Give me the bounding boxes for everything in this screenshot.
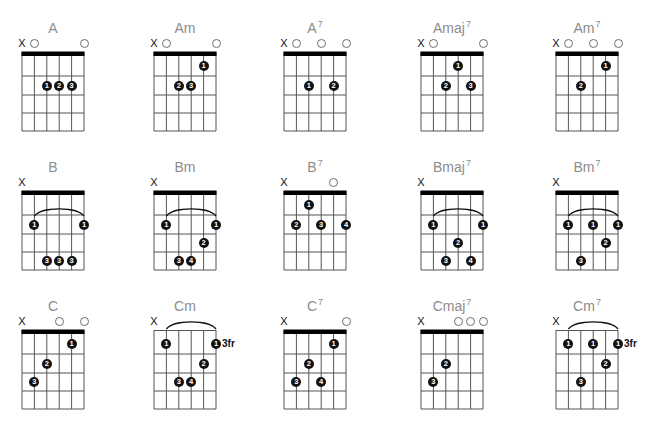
finger-dot: 1 — [42, 81, 52, 91]
chord-name: Cm7 — [516, 298, 655, 314]
finger-number: 1 — [70, 339, 74, 348]
finger-dot: 1 — [67, 339, 77, 349]
chord-extension-label: 7 — [318, 297, 323, 307]
chord-name: Cmaj7 — [381, 298, 523, 314]
finger-dot: 3 — [316, 220, 326, 230]
finger-number: 1 — [566, 339, 570, 348]
finger-number: 2 — [579, 81, 583, 90]
open-string-circle-icon — [80, 317, 89, 326]
finger-number: 1 — [566, 220, 570, 229]
chord-root-label: C — [307, 298, 317, 314]
chord-extension-label: 7 — [466, 158, 471, 168]
fretboard-grid — [542, 36, 632, 146]
fret-position-label: 3fr — [624, 338, 637, 350]
finger-dot: 2 — [601, 359, 611, 369]
chord-diagram: Bm7X11123 — [556, 191, 618, 271]
finger-number: 1 — [164, 339, 168, 348]
nut-bar — [421, 52, 484, 57]
chord-root-label: Cm — [573, 298, 595, 314]
chord-name: Bm7 — [516, 159, 655, 175]
open-string-circle-icon — [292, 39, 301, 48]
finger-number: 4 — [189, 377, 193, 386]
chord-extension-label: 7 — [595, 158, 600, 168]
finger-number: 2 — [177, 81, 181, 90]
finger-dot: 2 — [174, 81, 184, 91]
finger-dot: 1 — [478, 220, 488, 230]
fretboard-grid — [140, 314, 230, 424]
fretboard-grid — [8, 175, 98, 285]
chord-name: Am — [114, 20, 256, 36]
nut-bar — [22, 52, 85, 57]
open-string-circle-icon — [479, 317, 488, 326]
finger-dot: 4 — [466, 256, 476, 266]
chord-extension-label: 7 — [318, 19, 323, 29]
finger-dot: 1 — [563, 220, 573, 230]
finger-number: 1 — [45, 81, 49, 90]
finger-dot: 3 — [186, 81, 196, 91]
chord-name: Am7 — [516, 20, 655, 36]
finger-dot: 1 — [211, 220, 221, 230]
muted-string-x-icon: X — [550, 37, 562, 49]
open-string-circle-icon — [317, 39, 326, 48]
finger-number: 2 — [456, 238, 460, 247]
muted-string-x-icon: X — [278, 37, 290, 49]
chord-diagram: BmX11234 — [154, 191, 216, 271]
finger-dot: 2 — [54, 81, 64, 91]
chord-diagram: AmX123 — [154, 52, 216, 132]
chord-name: B — [0, 159, 124, 175]
finger-number: 1 — [202, 61, 206, 70]
finger-dot: 3 — [42, 256, 52, 266]
finger-number: 2 — [294, 220, 298, 229]
finger-number: 3 — [57, 256, 61, 265]
finger-dot: 3 — [174, 256, 184, 266]
finger-number: 2 — [604, 359, 608, 368]
finger-dot: 2 — [441, 81, 451, 91]
finger-number: 1 — [332, 339, 336, 348]
fretboard-grid — [270, 36, 360, 146]
barre-arc — [568, 322, 618, 329]
chord-chart: AX123AmX123A7X12Amaj7X123Am7X12BX11333Bm… — [0, 0, 655, 426]
open-string-circle-icon — [329, 178, 338, 187]
nut-bar — [154, 191, 217, 196]
finger-number: 2 — [202, 359, 206, 368]
finger-dot: 1 — [428, 220, 438, 230]
chord-root-label: Cmaj — [433, 298, 466, 314]
chord-name: C7 — [244, 298, 386, 314]
open-string-circle-icon — [342, 39, 351, 48]
nut-bar — [556, 52, 619, 57]
finger-number: 1 — [456, 61, 460, 70]
finger-number: 1 — [481, 220, 485, 229]
fretboard-grid — [407, 314, 497, 424]
fretboard-grid — [407, 175, 497, 285]
finger-number: 1 — [164, 220, 168, 229]
fretboard-grid — [407, 36, 497, 146]
finger-number: 3 — [444, 256, 448, 265]
open-string-circle-icon — [55, 317, 64, 326]
open-string-circle-icon — [564, 39, 573, 48]
chord-diagram: CX123 — [22, 330, 84, 410]
chord-root-label: B — [307, 159, 316, 175]
chord-diagram: Cm7X111233fr — [556, 330, 618, 410]
fretboard-grid — [8, 314, 98, 424]
open-string-circle-icon — [80, 39, 89, 48]
finger-number: 1 — [214, 339, 218, 348]
finger-dot: 1 — [199, 61, 209, 71]
chord-name: Bm — [114, 159, 256, 175]
finger-number: 4 — [469, 256, 473, 265]
chord-extension-label: 7 — [466, 297, 471, 307]
nut-bar — [284, 191, 347, 196]
finger-dot: 2 — [576, 81, 586, 91]
chord-root-label: C — [48, 298, 58, 314]
fretboard-grid — [270, 314, 360, 424]
muted-string-x-icon: X — [16, 176, 28, 188]
finger-dot: 1 — [613, 339, 623, 349]
muted-string-x-icon: X — [415, 37, 427, 49]
muted-string-x-icon: X — [278, 315, 290, 327]
chord-extension-label: 7 — [595, 19, 600, 29]
finger-dot: 1 — [588, 220, 598, 230]
finger-number: 2 — [45, 359, 49, 368]
finger-number: 1 — [591, 220, 595, 229]
finger-dot: 3 — [441, 256, 451, 266]
chord-root-label: Amaj — [433, 20, 465, 36]
finger-dot: 3 — [174, 377, 184, 387]
